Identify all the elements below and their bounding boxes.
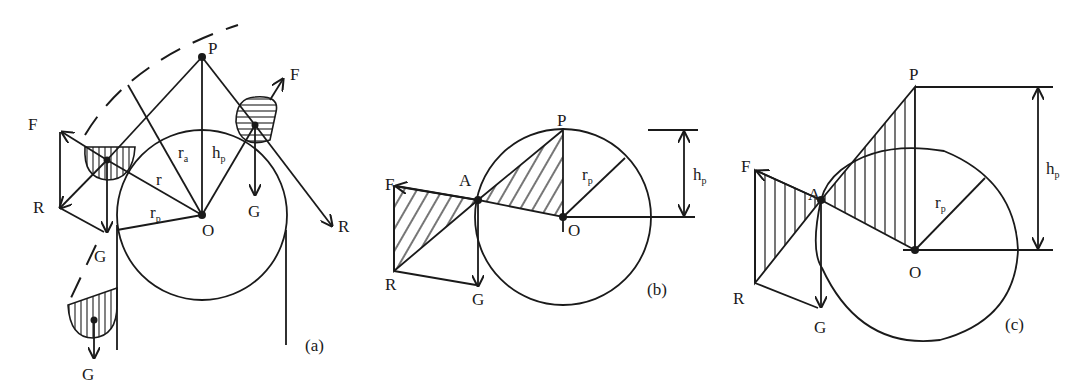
label-R: R <box>733 289 745 308</box>
label-G: G <box>814 318 826 337</box>
panel-a: P F F R R G G G O r ra hp rp (a) <box>28 25 350 384</box>
panel-b: P A F R G O rp hp (b) <box>385 111 707 309</box>
caption-c: (c) <box>1005 315 1024 334</box>
label-r-p: rp <box>582 165 593 186</box>
label-r-a: ra <box>178 143 189 164</box>
label-R-left: R <box>33 198 45 217</box>
label-F: F <box>741 157 750 176</box>
label-h-p: hp <box>1046 159 1060 180</box>
label-G: G <box>472 290 484 309</box>
label-A: A <box>808 185 821 204</box>
figure-canvas: P F F R R G G G O r ra hp rp (a) P A F R <box>0 0 1083 391</box>
label-r-p: rp <box>935 193 946 214</box>
label-P: P <box>909 65 918 84</box>
label-r-p: rp <box>150 203 161 224</box>
label-R-right: R <box>338 217 350 236</box>
caption-b: (b) <box>647 280 667 299</box>
caption-a: (a) <box>305 336 324 355</box>
label-O: O <box>568 221 580 240</box>
label-P: P <box>557 111 566 130</box>
label-O: O <box>202 221 214 240</box>
label-R: R <box>385 275 397 294</box>
label-F: F <box>385 175 394 194</box>
label-O: O <box>909 263 921 282</box>
label-r: r <box>156 170 162 189</box>
label-F-right: F <box>290 65 299 84</box>
dashed-arc-lower <box>70 245 96 300</box>
panel-c: P A F R G O rp hp (c) <box>733 65 1060 341</box>
label-h-p: hp <box>212 143 226 164</box>
label-G-bottom: G <box>82 365 94 384</box>
label-h-p: hp <box>693 165 707 186</box>
label-G-left: G <box>94 247 106 266</box>
label-A: A <box>459 171 472 190</box>
label-G-right: G <box>248 202 260 221</box>
label-P: P <box>208 39 217 58</box>
label-F-left: F <box>28 115 37 134</box>
